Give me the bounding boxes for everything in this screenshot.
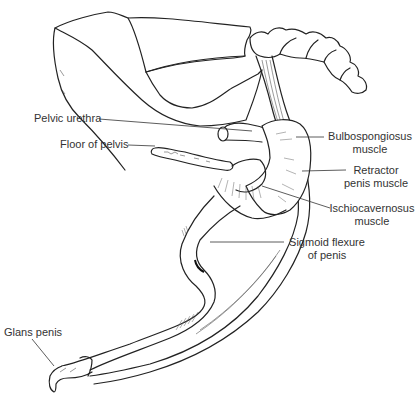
label-floor-of-pelvis: Floor of pelvis [60, 138, 128, 151]
label-pelvic-urethra: Pelvic urethra [34, 112, 101, 125]
label-sigmoid-line2: of penis [284, 249, 370, 262]
label-retractor-penis-muscle: Retractor penis muscle [338, 164, 414, 190]
glans-penis [49, 357, 92, 392]
pelvic-floor [151, 147, 233, 170]
retractor-penis-muscle [90, 56, 310, 384]
label-sigmoid-flexure: Sigmoid flexure of penis [284, 236, 370, 262]
label-ischio-line1: Ischiocavernosus [328, 202, 416, 215]
label-glans-penis: Glans penis [4, 326, 62, 339]
label-sigmoid-line1: Sigmoid flexure [284, 236, 370, 249]
anatomy-illustration [0, 0, 416, 395]
label-bulbospongiosus-line2: muscle [326, 143, 414, 156]
label-retractor-line2: penis muscle [338, 177, 414, 190]
label-ischio-line2: muscle [328, 215, 416, 228]
label-bulbospongiosus-line1: Bulbospongiosus [326, 130, 414, 143]
label-ischiocavernosus-muscle: Ischiocavernosus muscle [328, 202, 416, 228]
label-retractor-line1: Retractor [338, 164, 414, 177]
bulbospongiosus-muscle [232, 120, 311, 215]
label-bulbospongiosus-muscle: Bulbospongiosus muscle [326, 130, 414, 156]
penis-shaft [62, 196, 240, 370]
